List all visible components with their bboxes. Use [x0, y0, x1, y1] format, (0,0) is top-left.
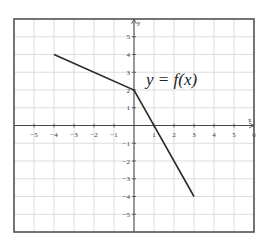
y-tick-label: −1	[123, 140, 131, 148]
y-tick-label: −3	[123, 175, 131, 183]
axes	[14, 19, 254, 232]
y-tick-label: 3	[127, 69, 131, 77]
x-tick-label: 2	[172, 131, 176, 139]
function-graph: −5−4−3−2−112345654321−1−2−3−4−5 y = f(x)…	[0, 0, 272, 242]
x-tick-label: −3	[70, 131, 78, 139]
x-tick-label: −2	[90, 131, 98, 139]
x-axis-label: x	[248, 116, 252, 124]
x-tick-label: 5	[232, 131, 236, 139]
x-tick-label: −1	[110, 131, 118, 139]
y-tick-label: 5	[127, 33, 131, 41]
x-tick-label: −4	[50, 131, 58, 139]
y-tick-label: 1	[127, 104, 131, 112]
y-axis-label: y	[137, 19, 141, 27]
x-tick-label: −5	[30, 131, 38, 139]
y-tick-label: −4	[123, 193, 131, 201]
function-label: y = f(x)	[144, 70, 197, 89]
x-tick-label: 4	[212, 131, 216, 139]
y-tick-label: −2	[123, 158, 131, 166]
y-tick-label: 4	[127, 51, 131, 59]
x-tick-label: 1	[152, 131, 156, 139]
y-tick-label: −5	[123, 211, 131, 219]
x-tick-label: 3	[192, 131, 196, 139]
